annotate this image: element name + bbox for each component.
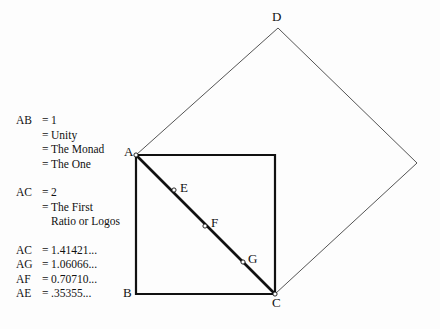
legend-value: The First bbox=[51, 200, 93, 215]
legend-equals: = bbox=[42, 200, 51, 215]
legend-key: AC bbox=[16, 185, 42, 200]
legend-equals: = bbox=[42, 128, 51, 143]
point-marker-g bbox=[241, 260, 245, 264]
legend-block: AB = 1 AB = Unity AB = The Monad AB = Th… bbox=[16, 113, 136, 315]
legend-equals: = bbox=[42, 243, 51, 258]
point-label-e: E bbox=[180, 181, 188, 194]
legend-equals: = bbox=[42, 286, 51, 301]
point-marker-f bbox=[203, 224, 207, 228]
legend-value: 1.41421... bbox=[51, 243, 97, 258]
legend-value: 1 bbox=[51, 113, 57, 128]
legend-value: Unity bbox=[51, 128, 77, 143]
outer-diamond-square bbox=[136, 28, 417, 294]
legend-row: AF = 0.70710... bbox=[16, 272, 136, 287]
legend-value: The One bbox=[51, 157, 91, 172]
legend-value: 2 bbox=[51, 185, 57, 200]
legend-value: Ratio or Logos bbox=[51, 214, 120, 229]
legend-key: AG bbox=[16, 257, 42, 272]
figure-canvas: AB = 1 AB = Unity AB = The Monad AB = Th… bbox=[0, 0, 440, 329]
legend-equals: = bbox=[42, 113, 51, 128]
legend-equals: = bbox=[42, 157, 51, 172]
legend-group-ac: AC = 2 AC = The First AC = Ratio or Logo… bbox=[16, 185, 136, 229]
legend-value: 0.70710... bbox=[51, 272, 97, 287]
legend-value: The Monad bbox=[51, 142, 104, 157]
legend-row: AE = .35355... bbox=[16, 286, 136, 301]
legend-key: AE bbox=[16, 286, 42, 301]
legend-group-ab: AB = 1 AB = Unity AB = The Monad AB = Th… bbox=[16, 113, 136, 171]
point-label-a: A bbox=[124, 145, 133, 158]
legend-value: .35355... bbox=[51, 286, 91, 301]
legend-row: AB = Unity bbox=[16, 128, 136, 143]
legend-equals: = bbox=[42, 272, 51, 287]
point-label-f: F bbox=[211, 216, 218, 229]
point-label-g: G bbox=[248, 252, 257, 265]
legend-row: AC = 2 bbox=[16, 185, 136, 200]
legend-equals: = bbox=[42, 185, 51, 200]
legend-row: AC = Ratio or Logos bbox=[16, 214, 136, 229]
legend-key: AC bbox=[16, 243, 42, 258]
point-marker-e bbox=[172, 188, 176, 192]
legend-group-measurements: AC = 1.41421... AG = 1.06066... AF = 0.7… bbox=[16, 243, 136, 301]
legend-row: AB = 1 bbox=[16, 113, 136, 128]
point-label-c: C bbox=[272, 296, 281, 309]
legend-row: AC = 1.41421... bbox=[16, 243, 136, 258]
legend-key: AB bbox=[16, 113, 42, 128]
legend-key: AF bbox=[16, 272, 42, 287]
legend-equals: = bbox=[42, 142, 51, 157]
legend-row: AC = The First bbox=[16, 200, 136, 215]
legend-value: 1.06066... bbox=[51, 257, 97, 272]
point-label-d: D bbox=[272, 10, 281, 23]
legend-row: AB = The Monad bbox=[16, 142, 136, 157]
legend-row: AG = 1.06066... bbox=[16, 257, 136, 272]
legend-equals: = bbox=[42, 257, 51, 272]
point-label-b: B bbox=[123, 286, 132, 299]
legend-row: AB = The One bbox=[16, 157, 136, 172]
